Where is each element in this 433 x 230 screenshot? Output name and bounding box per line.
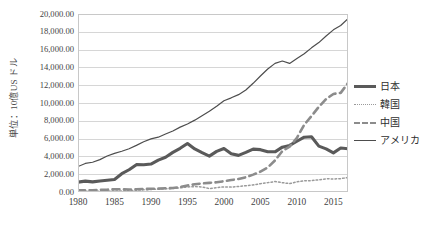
y-axis-tick-label: 8,000.00: [14, 116, 74, 125]
legend-line-swatch-icon: [354, 104, 376, 105]
chart-legend: 日本韓国中国アメリカ: [354, 78, 433, 154]
y-axis-tick-label: 6,000.00: [14, 134, 74, 143]
legend-label: 日本: [380, 78, 400, 95]
legend-item[interactable]: 韓国: [354, 96, 433, 114]
y-axis-tick-label: 4,000.00: [14, 152, 74, 161]
legend-label: アメリカ: [380, 132, 420, 149]
y-axis-tick-label: 20,000.00: [14, 10, 74, 19]
x-axis-tick-label: 2015: [310, 196, 356, 208]
gdp-line-chart: 単位：10億US ドル 0.002,000.004,000.006,000.00…: [0, 0, 433, 230]
series-lines: [78, 19, 348, 192]
series-line: [78, 19, 348, 167]
y-axis-tick-label: 14,000.00: [14, 63, 74, 72]
y-axis-tick-labels: 0.002,000.004,000.006,000.008,000.0010,0…: [14, 14, 74, 192]
series-line: [78, 137, 348, 182]
legend-label: 韓国: [380, 96, 400, 113]
y-axis-tick-label: 16,000.00: [14, 45, 74, 54]
y-axis-tick-label: 12,000.00: [14, 81, 74, 90]
legend-label: 中国: [380, 114, 400, 131]
y-axis-tick-label: 10,000.00: [14, 99, 74, 108]
x-axis-tick-labels: 19801985199019952000200520102015: [0, 196, 433, 212]
plot-svg: [78, 14, 348, 192]
legend-item[interactable]: 日本: [354, 78, 433, 96]
legend-item[interactable]: アメリカ: [354, 132, 433, 150]
y-axis-tick-label: 2,000.00: [14, 170, 74, 179]
legend-line-swatch-icon: [354, 85, 376, 88]
legend-line-swatch-icon: [354, 122, 376, 124]
legend-item[interactable]: 中国: [354, 114, 433, 132]
y-axis-tick-label: 18,000.00: [14, 27, 74, 36]
legend-line-swatch-icon: [354, 140, 376, 141]
plot-area: [78, 14, 348, 192]
gridlines: [78, 15, 348, 175]
